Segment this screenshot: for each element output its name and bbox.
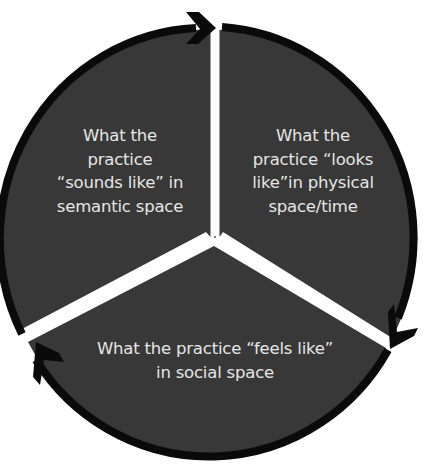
segment-label-line: space/time — [228, 195, 398, 219]
segment-label-line: in social space — [70, 361, 360, 385]
segment-label-line: semantic space — [40, 195, 200, 219]
segment-label-line: What the — [228, 124, 398, 148]
segment-label-social: What the practice “feels like” in social… — [70, 337, 360, 384]
segment-label-line: like”in physical — [228, 171, 398, 195]
segment-label-line: practice — [40, 148, 200, 172]
segment-label-line: What the — [40, 124, 200, 148]
segment-label-physical: What the practice “looks like”in physica… — [228, 124, 398, 218]
cycle-diagram — [0, 0, 428, 466]
segment-label-line: What the practice “feels like” — [70, 337, 360, 361]
center-dot — [214, 236, 216, 238]
segment-label-semantic: What the practice “sounds like” in seman… — [40, 124, 200, 218]
segment-label-line: practice “looks — [228, 148, 398, 172]
segment-label-line: “sounds like” in — [40, 171, 200, 195]
